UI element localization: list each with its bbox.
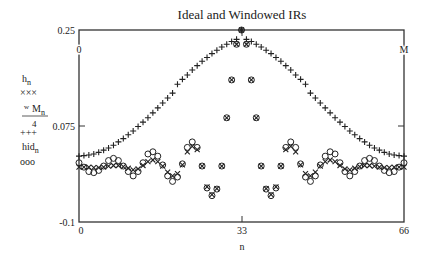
x-tick-0: 0 <box>79 225 84 236</box>
series-layer <box>76 27 407 199</box>
svg-text:hidn: hidn <box>22 141 39 155</box>
top-left-label: 0 <box>77 44 82 55</box>
svg-text:w: w <box>24 103 30 111</box>
series-circle <box>76 27 407 199</box>
svg-text:hn: hn <box>22 73 31 87</box>
legend-marker-plus: +++ <box>20 127 37 138</box>
chart: Ideal and Windowed IRs 0.25 0.075 -0.1 0… <box>0 0 428 265</box>
series-plus <box>76 27 407 159</box>
svg-text:Mn: Mn <box>32 103 45 117</box>
legend-marker-x: ××× <box>20 87 37 98</box>
x-axis-label: n <box>240 241 245 252</box>
legend: hn ××× w Mn 4 +++ hidn ooo <box>20 73 48 167</box>
chart-title: Ideal and Windowed IRs <box>178 7 307 22</box>
y-tick-bottom: -0.1 <box>59 217 75 228</box>
top-right-label: M <box>400 44 409 55</box>
legend-marker-circle: ooo <box>20 156 35 167</box>
x-tick-33: 33 <box>237 225 247 236</box>
y-tick-mid: 0.075 <box>53 121 76 132</box>
plot-frame <box>79 30 404 222</box>
y-tick-top: 0.25 <box>58 25 76 36</box>
series-x <box>77 28 407 198</box>
x-tick-66: 66 <box>399 225 409 236</box>
